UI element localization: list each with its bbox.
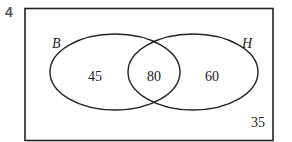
outside-value: 35 <box>251 115 265 130</box>
set-h-label: H <box>241 36 253 51</box>
h-only-value: 60 <box>205 69 219 84</box>
b-only-value: 45 <box>88 69 102 84</box>
intersection-value: 80 <box>147 69 161 84</box>
venn-diagram: B H 45 80 60 35 <box>0 0 292 142</box>
set-b-label: B <box>52 36 61 51</box>
